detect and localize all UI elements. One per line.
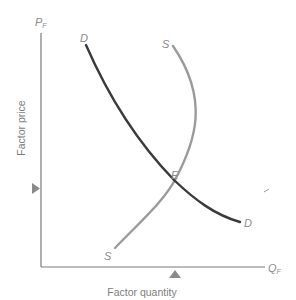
y-axis-symbol: PF [35, 16, 47, 29]
demand-curve [86, 45, 240, 222]
y-axis-title: Factor price [15, 100, 27, 156]
stray-tick-mark [264, 189, 269, 192]
x-axis-title: Factor quantity [107, 286, 177, 298]
factor-market-diagram: PF QF Factor price Factor quantity D D S… [0, 0, 296, 300]
demand-label-top: D [80, 32, 88, 44]
demand-label-bottom: D [244, 217, 252, 229]
quantity-marker-icon [169, 270, 181, 278]
supply-label-top: S [162, 38, 170, 50]
supply-label-bottom: S [104, 250, 112, 262]
x-axis-symbol: QF [268, 262, 282, 275]
price-marker-icon [32, 183, 40, 194]
equilibrium-label: E [171, 169, 179, 181]
supply-curve [115, 46, 196, 248]
